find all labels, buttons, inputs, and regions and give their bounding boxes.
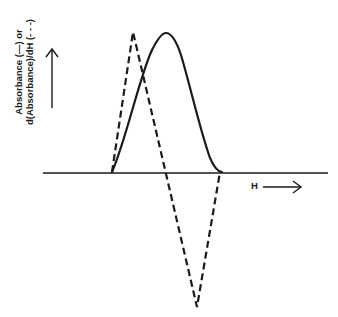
- diagram-canvas: [0, 0, 338, 317]
- y-axis-label-line1: Absorbance (—) or: [13, 19, 24, 125]
- y-axis-label-line2: d(Absorbance)/dH (- - -): [24, 19, 35, 125]
- derivative-curve: [112, 32, 220, 307]
- absorbance-curve: [112, 33, 222, 172]
- absorbance-derivative-diagram: Absorbance (—) or d(Absorbance)/dH (- - …: [0, 0, 338, 317]
- x-axis-label: H: [251, 180, 258, 191]
- y-direction-arrow-icon: [46, 49, 58, 108]
- x-direction-arrow-icon: [263, 181, 301, 193]
